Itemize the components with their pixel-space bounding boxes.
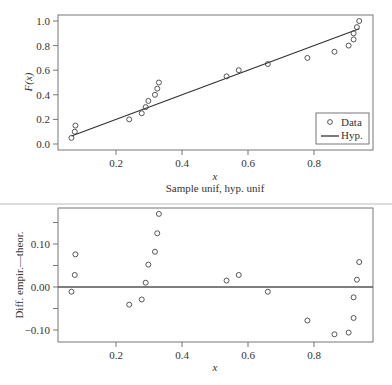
difference-point	[236, 272, 241, 277]
bottom-difference-plot: −0.100.000.10 0.20.40.60.8 Diff. empir.—…	[13, 208, 373, 373]
y-tick-label: 0.2	[36, 113, 50, 125]
bottom-y-axis-label: Diff. empir.—theor.	[13, 231, 25, 318]
x-tick-label: 0.6	[241, 157, 255, 169]
legend: Data Hyp.	[316, 113, 369, 144]
bottom-plot-frame	[58, 208, 373, 342]
x-tick-label: 0.6	[241, 349, 255, 361]
legend-hyp-label: Hyp.	[341, 129, 363, 141]
y-tick-label: 0.8	[36, 40, 50, 52]
y-tick-label: 0.0	[36, 138, 50, 150]
difference-points	[69, 211, 362, 336]
difference-point	[357, 260, 362, 265]
difference-point	[351, 295, 356, 300]
bottom-x-axis: 0.20.40.60.8	[109, 342, 321, 361]
data-point	[155, 86, 160, 91]
y-tick-label: 0.6	[36, 64, 50, 76]
data-point	[332, 49, 337, 54]
difference-point	[152, 249, 157, 254]
difference-point	[69, 289, 74, 294]
data-point	[156, 80, 161, 85]
difference-point	[127, 302, 132, 307]
x-tick-label: 0.2	[109, 349, 123, 361]
data-point	[354, 25, 359, 30]
difference-point	[351, 315, 356, 320]
difference-point	[72, 272, 77, 277]
difference-point	[146, 262, 151, 267]
figure: 0.00.20.40.60.81.0 0.20.40.60.8 F(x) x S…	[0, 0, 392, 385]
difference-point	[155, 231, 160, 236]
difference-point	[143, 280, 148, 285]
top-ecdf-plot: 0.00.20.40.60.81.0 0.20.40.60.8 F(x) x S…	[22, 15, 373, 194]
difference-point	[346, 330, 351, 335]
data-point	[357, 19, 362, 24]
difference-point	[265, 289, 270, 294]
x-tick-label: 0.4	[175, 157, 189, 169]
data-point	[152, 92, 157, 97]
top-x-axis-label: x	[212, 170, 218, 182]
difference-point	[224, 278, 229, 283]
bottom-y-axis: −0.100.000.10	[25, 223, 58, 337]
top-y-axis: 0.00.20.40.60.81.0	[36, 15, 58, 150]
data-point	[236, 68, 241, 73]
x-tick-label: 0.4	[175, 349, 189, 361]
difference-point	[305, 318, 310, 323]
legend-data-label: Data	[341, 116, 362, 128]
data-point	[146, 98, 151, 103]
data-point	[139, 111, 144, 116]
top-plot-caption: Sample unif, hyp. unif	[166, 182, 265, 194]
top-y-axis-label: F(x)	[22, 72, 35, 92]
x-tick-label: 0.2	[109, 157, 123, 169]
bottom-x-axis-label: x	[212, 361, 218, 373]
x-tick-label: 0.8	[307, 349, 321, 361]
data-point	[72, 129, 77, 134]
y-tick-label: 0.00	[31, 281, 51, 293]
y-tick-label: 1.0	[36, 15, 50, 27]
difference-point	[156, 211, 161, 216]
data-point	[351, 31, 356, 36]
data-point	[127, 117, 132, 122]
difference-point	[332, 332, 337, 337]
y-tick-label: −0.10	[25, 324, 51, 336]
y-tick-label: 0.4	[36, 89, 50, 101]
data-point	[73, 123, 78, 128]
difference-point	[139, 297, 144, 302]
data-point	[351, 37, 356, 42]
data-point	[305, 55, 310, 60]
x-tick-label: 0.8	[307, 157, 321, 169]
data-point	[346, 43, 351, 48]
data-point	[69, 135, 74, 140]
y-tick-label: 0.10	[31, 238, 51, 250]
difference-point	[73, 252, 78, 257]
top-x-axis: 0.20.40.60.8	[109, 150, 321, 169]
difference-point	[354, 277, 359, 282]
